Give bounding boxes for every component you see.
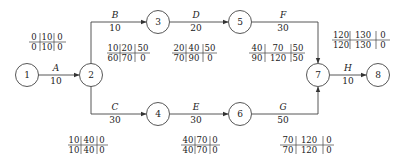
svg-text:40: 40 [183, 135, 194, 145]
svg-text:70: 70 [197, 145, 208, 155]
svg-text:0: 0 [380, 30, 385, 40]
time-table-e: 40 70 0 40 70 0 [183, 135, 218, 155]
svg-text:10: 10 [69, 145, 80, 155]
svg-text:0: 0 [326, 145, 331, 155]
node-4-label: 4 [155, 109, 161, 119]
svg-text:70: 70 [273, 43, 284, 53]
svg-text:90: 90 [189, 53, 200, 63]
activity-g-name: G [279, 102, 286, 112]
node-2-label: 2 [88, 70, 94, 80]
activity-a-name: A [52, 63, 60, 73]
activity-c-duration: 30 [109, 115, 121, 125]
node-6-label: 6 [237, 109, 243, 119]
svg-text:70: 70 [283, 145, 294, 155]
activity-e-name: E [192, 102, 200, 112]
activity-c-name: C [112, 102, 119, 112]
svg-text:10: 10 [108, 43, 119, 53]
svg-text:0: 0 [212, 145, 217, 155]
svg-text:120: 120 [270, 53, 286, 63]
svg-text:40: 40 [84, 145, 95, 155]
svg-text:0: 0 [326, 135, 331, 145]
svg-text:130: 130 [355, 30, 371, 40]
time-table-d: 20 40 50 70 90 0 [174, 43, 216, 63]
time-table-b: 10 20 50 60 70 0 [108, 43, 149, 63]
svg-text:40: 40 [84, 135, 95, 145]
svg-text:120: 120 [333, 30, 349, 40]
svg-text:20: 20 [174, 43, 185, 53]
time-table-a: 0 10 0 0 10 0 [31, 32, 62, 52]
svg-text:120: 120 [301, 135, 317, 145]
svg-text:120: 120 [301, 145, 317, 155]
svg-text:70: 70 [283, 135, 294, 145]
svg-text:50: 50 [138, 43, 149, 53]
node-1-label: 1 [24, 70, 30, 80]
svg-text:0: 0 [140, 53, 145, 63]
svg-text:10: 10 [69, 135, 80, 145]
svg-text:0: 0 [31, 42, 36, 52]
svg-text:50: 50 [293, 53, 304, 63]
node-8-label: 8 [375, 70, 381, 80]
svg-text:0: 0 [212, 135, 217, 145]
node-3-label: 3 [155, 17, 161, 27]
activity-h-name: H [343, 63, 352, 73]
activity-d-duration: 20 [190, 23, 202, 33]
edge-c [91, 86, 146, 114]
svg-text:10: 10 [42, 42, 53, 52]
svg-text:70: 70 [122, 53, 133, 63]
svg-text:10: 10 [42, 32, 53, 42]
svg-text:0: 0 [31, 32, 36, 42]
activity-b-duration: 10 [109, 23, 121, 33]
activity-f-name: F [279, 10, 287, 20]
svg-text:90: 90 [252, 53, 263, 63]
svg-text:0: 0 [57, 42, 62, 52]
svg-text:0: 0 [380, 40, 385, 50]
node-5-label: 5 [237, 17, 243, 27]
network-diagram: 1 2 3 4 5 6 7 8 A 10 B 10 C 30 D 20 E 30… [0, 0, 402, 167]
activity-b-name: B [111, 10, 119, 20]
svg-text:120: 120 [333, 40, 349, 50]
svg-text:40: 40 [189, 43, 200, 53]
activity-h-duration: 10 [342, 76, 354, 86]
svg-text:60: 60 [108, 53, 119, 63]
svg-text:130: 130 [355, 40, 371, 50]
svg-text:40: 40 [252, 43, 263, 53]
svg-text:0: 0 [99, 145, 104, 155]
svg-text:70: 70 [174, 53, 185, 63]
svg-text:0: 0 [57, 32, 62, 42]
svg-text:0: 0 [99, 135, 104, 145]
svg-text:40: 40 [183, 145, 194, 155]
activity-e-duration: 30 [190, 115, 202, 125]
node-7-label: 7 [315, 70, 321, 80]
time-table-f: 40 70 50 90 120 50 [252, 43, 304, 63]
svg-text:70: 70 [197, 135, 208, 145]
activity-d-name: D [191, 10, 199, 20]
activity-a-duration: 10 [50, 76, 62, 86]
time-table-c: 10 40 0 10 40 0 [69, 135, 105, 155]
svg-text:50: 50 [293, 43, 304, 53]
activity-g-duration: 50 [277, 115, 289, 125]
svg-text:20: 20 [122, 43, 133, 53]
svg-text:50: 50 [205, 43, 216, 53]
activity-f-duration: 30 [277, 23, 289, 33]
svg-text:0: 0 [207, 53, 212, 63]
